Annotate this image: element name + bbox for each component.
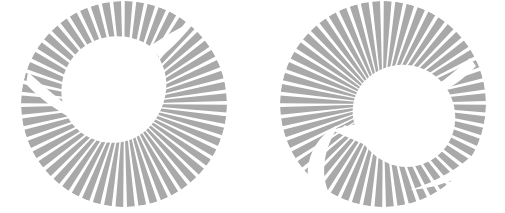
left-eye-dot [155,74,159,78]
logo-canvas [0,0,505,213]
kiwi-logos-svg [0,0,505,213]
right-eye-dot [343,125,347,129]
logos-container [0,0,505,213]
